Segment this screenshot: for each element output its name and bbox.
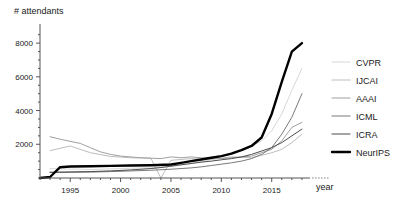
x-tick-labels: 19952000200520102015	[61, 186, 281, 195]
x-tick-label: 2010	[212, 186, 230, 195]
legend-label-aaai: AAAI	[356, 94, 377, 104]
x-tick-label: 2005	[162, 186, 180, 195]
legend-label-icra: ICRA	[356, 130, 378, 140]
y-axis-title: # attendants	[14, 6, 64, 16]
series-line-neurips	[40, 43, 302, 178]
legend-label-neurips: NeurIPS	[356, 148, 390, 158]
x-axis-title: year	[316, 182, 334, 192]
x-tick-label: 2015	[263, 186, 281, 195]
x-tick-label: 2000	[112, 186, 130, 195]
x-tick-label: 1995	[61, 186, 79, 195]
y-tick-labels: 2000400060008000	[15, 39, 33, 149]
chart-figure: # attendants year 2000400060008000 19952…	[0, 0, 411, 217]
y-tick-label: 8000	[15, 39, 33, 48]
y-tick-label: 4000	[15, 107, 33, 116]
legend-label-cvpr: CVPR	[356, 58, 382, 68]
legend-label-icml: ICML	[356, 112, 378, 122]
chart-legend: CVPRIJCAIAAAIICMLICRANeurIPS	[332, 58, 390, 158]
legend-label-ijcai: IJCAI	[356, 76, 378, 86]
y-tick-label: 2000	[15, 140, 33, 149]
attendance-line-chart: # attendants year 2000400060008000 19952…	[0, 0, 411, 217]
y-tick-label: 6000	[15, 73, 33, 82]
axis-group	[36, 24, 329, 182]
series-lines	[40, 43, 302, 178]
